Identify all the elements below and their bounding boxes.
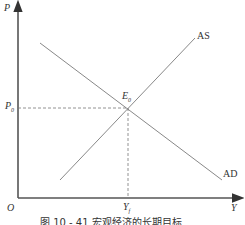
figure-caption: 图 10 - 41 宏观经济的长期目标 <box>40 214 182 225</box>
equilibrium-label: E0 <box>122 90 131 103</box>
yf-label: Yf <box>123 201 130 214</box>
as-label: AS <box>197 30 210 41</box>
p0-label: P0 <box>5 100 14 113</box>
ad-curve <box>40 43 222 180</box>
x-axis-label: Y <box>231 202 237 213</box>
ad-label: AD <box>223 168 237 179</box>
origin-label: O <box>7 202 14 213</box>
y-axis-label: P <box>4 2 10 13</box>
